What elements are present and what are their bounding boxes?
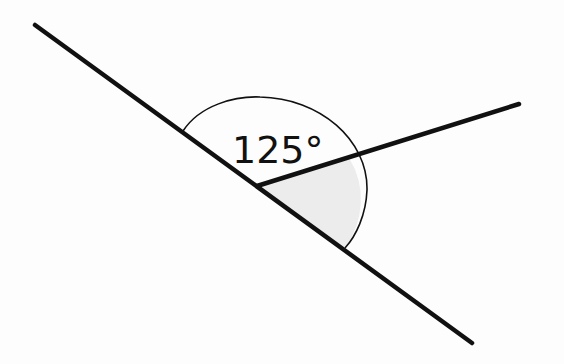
main-line <box>35 25 472 343</box>
diagram-canvas: 125° <box>0 0 564 364</box>
angle-label: 125° <box>232 128 324 172</box>
angle-diagram: 125° <box>0 0 564 364</box>
